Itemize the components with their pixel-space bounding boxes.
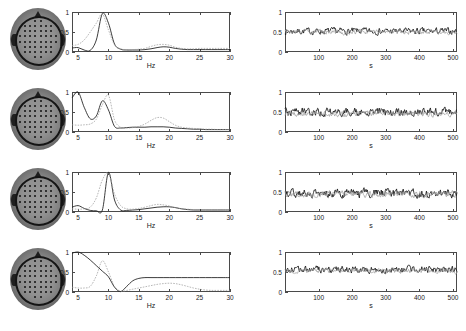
spectrum-plot-3: 00.5151015202530Hz: [72, 172, 230, 212]
electrode-dot: [55, 195, 57, 197]
electrode-dot: [40, 56, 42, 58]
electrode-dot: [24, 201, 26, 203]
electrode-dot: [29, 195, 31, 197]
x-tick-label: 5: [76, 214, 80, 221]
timecourse-plot-4: 00.51100200300400500s: [285, 252, 457, 292]
electrode-dot: [24, 270, 26, 272]
electrode-dot: [19, 41, 21, 43]
electrode-dot: [24, 211, 26, 213]
electrode-dot: [34, 185, 36, 187]
electrode-dot: [29, 30, 31, 32]
x-tick-label: 400: [414, 134, 425, 141]
electrode-dot: [50, 46, 52, 48]
spectrum-plot-2: 00.5151015202530Hz: [72, 92, 230, 132]
electrode-dot: [34, 100, 36, 102]
x-tick-label: 300: [380, 294, 391, 301]
x-tick-label: 25: [196, 54, 203, 61]
y-tick-label: 1: [278, 89, 282, 96]
electrode-dot: [45, 115, 47, 117]
x-tick-label: 5: [76, 134, 80, 141]
y-tick-mark: [285, 212, 288, 213]
reference-spectrum: [72, 14, 230, 50]
x-axis-label: s: [369, 62, 373, 69]
x-tick-label: 20: [166, 54, 173, 61]
y-tick-label: 0: [65, 209, 69, 216]
electrode-dot: [40, 291, 42, 293]
electrode-dot: [50, 121, 52, 123]
x-tick-label: 25: [196, 214, 203, 221]
y-tick-label: 1: [65, 9, 69, 16]
electrode-dot: [50, 115, 52, 117]
electrode-dot: [50, 275, 52, 277]
eeg-component-figure: 00.5151015202530Hz00.51100200300400500s0…: [0, 0, 466, 331]
electrode-dot: [24, 185, 26, 187]
electrode-dot: [19, 275, 21, 277]
y-tick-mark: [72, 132, 75, 133]
electrode-dot: [24, 291, 26, 293]
electrode-dot: [40, 115, 42, 117]
y-tick-label: 1: [65, 169, 69, 176]
x-tick-label: 10: [105, 214, 112, 221]
scalp-topography-2: [10, 88, 66, 150]
electrode-dot: [34, 180, 36, 182]
electrode-dot: [50, 126, 52, 128]
y-tick-mark: [285, 292, 288, 293]
electrode-dot: [55, 281, 57, 283]
electrode-dot: [29, 105, 31, 107]
scalp-topography-1: [10, 8, 66, 70]
electrode-dot: [40, 110, 42, 112]
electrode-dot: [29, 291, 31, 293]
electrode-dot: [45, 275, 47, 277]
x-axis-label: Hz: [147, 142, 156, 149]
x-tick-label: 25: [196, 294, 203, 301]
x-tick-label: 500: [448, 294, 459, 301]
electrode-dot: [29, 35, 31, 37]
electrode-dot: [24, 35, 26, 37]
electrode-grid: [17, 258, 59, 300]
electrode-dot: [34, 281, 36, 283]
electrode-dot: [29, 206, 31, 208]
electrode-dot: [40, 275, 42, 277]
electrode-dot: [34, 131, 36, 133]
electrode-dot: [40, 270, 42, 272]
x-tick-label: 200: [347, 294, 358, 301]
electrode-grid: [17, 178, 59, 220]
component-row-4: 00.5151015202530Hz00.51100200300400500s: [0, 242, 466, 322]
electrode-dot: [50, 131, 52, 133]
electrode-dot: [50, 195, 52, 197]
series-layer: [285, 92, 457, 132]
component-spectrum: [72, 252, 230, 292]
x-tick-mark: [230, 289, 231, 292]
electrode-dot: [40, 281, 42, 283]
electrode-dot: [19, 195, 21, 197]
electrode-dot: [40, 35, 42, 37]
electrode-dot: [34, 46, 36, 48]
y-tick-label: 0.5: [273, 269, 282, 276]
component-activity: [285, 188, 457, 199]
electrode-dot: [40, 201, 42, 203]
electrode-dot: [45, 41, 47, 43]
electrode-dot: [40, 190, 42, 192]
electrode-dot: [50, 211, 52, 213]
electrode-dot: [40, 286, 42, 288]
electrode-dot: [40, 180, 42, 182]
electrode-dot: [34, 195, 36, 197]
electrode-dot: [24, 51, 26, 53]
y-tick-label: 0.5: [60, 269, 69, 276]
electrode-dot: [55, 275, 57, 277]
electrode-dot: [34, 201, 36, 203]
electrode-dot: [19, 281, 21, 283]
x-tick-label: 300: [380, 214, 391, 221]
electrode-dot: [24, 286, 26, 288]
y-tick-mark: [285, 52, 288, 53]
electrode-dot: [29, 211, 31, 213]
electrode-dot: [40, 136, 42, 138]
y-tick-label: 0.5: [273, 189, 282, 196]
electrode-dot: [55, 115, 57, 117]
x-tick-label: 500: [448, 54, 459, 61]
x-tick-label: 100: [313, 294, 324, 301]
electrode-dot: [40, 211, 42, 213]
electrode-dot: [34, 270, 36, 272]
electrode-dot: [19, 115, 21, 117]
electrode-dot: [40, 260, 42, 262]
